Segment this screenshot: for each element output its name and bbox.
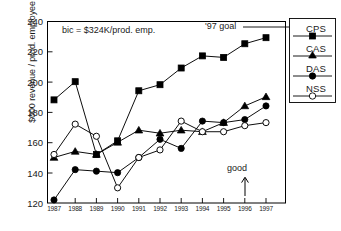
datapoint-das-1997 xyxy=(263,103,269,109)
good-arrow-icon xyxy=(242,177,249,196)
legend-sample-nss[interactable] xyxy=(293,93,332,99)
legend-sample-das[interactable] xyxy=(293,73,332,79)
datapoint-nss-1994 xyxy=(199,129,205,135)
datapoint-nss-1991 xyxy=(136,154,142,160)
legend-box xyxy=(290,19,336,103)
datapoint-nss-1988 xyxy=(72,121,78,127)
datapoint-cas-1997 xyxy=(262,93,270,100)
datapoint-cas-1993 xyxy=(177,126,185,133)
datapoint-nss-1997 xyxy=(263,120,269,126)
series-layer xyxy=(50,35,270,203)
datapoint-cps-1993 xyxy=(178,65,184,71)
datapoint-das-1990 xyxy=(115,170,121,176)
datapoint-nss-1987 xyxy=(51,151,57,157)
datapoint-das-1993 xyxy=(178,145,184,151)
datapoint-nss-1996 xyxy=(242,123,248,129)
legend-sample-cps[interactable] xyxy=(293,33,332,39)
datapoint-das-1989 xyxy=(93,168,99,174)
plot-frame xyxy=(48,22,286,204)
datapoint-cps-1994 xyxy=(199,53,205,59)
datapoint-cps-1996 xyxy=(242,41,248,47)
x-tick-marks xyxy=(54,198,266,203)
datapoint-cps-1988 xyxy=(72,79,78,85)
datapoint-nss-1992 xyxy=(157,147,163,153)
datapoint-cas-1996 xyxy=(241,102,249,109)
datapoint-cps-1991 xyxy=(136,88,142,94)
datapoint-das-1988 xyxy=(72,167,78,173)
chart-figure: $000 revenue / prod. employee 240 220 20… xyxy=(0,0,341,231)
datapoint-nss-1990 xyxy=(115,185,121,191)
datapoint-nss-1995 xyxy=(221,129,227,135)
datapoint-nss-1989 xyxy=(93,133,99,139)
datapoint-das-1995 xyxy=(221,120,227,126)
datapoint-cps-1995 xyxy=(221,54,227,60)
datapoint-cps-1992 xyxy=(157,82,163,88)
datapoint-das-1992 xyxy=(157,136,163,142)
datapoint-nss-1993 xyxy=(178,118,184,124)
datapoint-cps-1997 xyxy=(263,35,269,41)
datapoint-cas-1988 xyxy=(71,148,79,155)
datapoint-cps-1987 xyxy=(51,97,57,103)
legend-sample-cas[interactable] xyxy=(293,52,332,59)
chart-canvas xyxy=(0,0,341,231)
datapoint-das-1987 xyxy=(51,197,57,203)
datapoint-das-1994 xyxy=(199,118,205,124)
datapoint-cas-1991 xyxy=(135,126,143,133)
datapoint-das-1996 xyxy=(242,116,248,122)
